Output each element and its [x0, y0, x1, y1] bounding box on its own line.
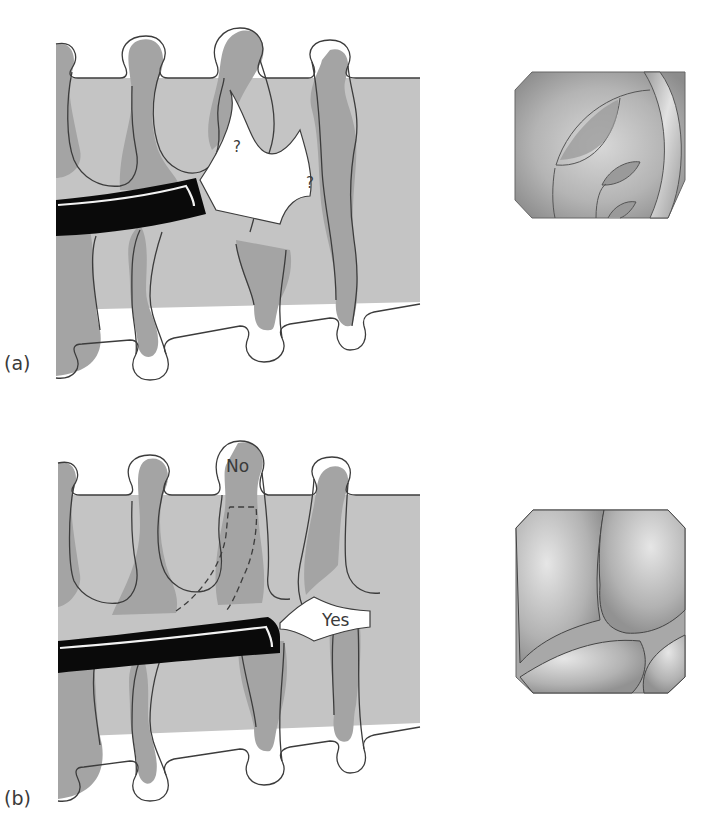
question-mark-2: ?	[306, 174, 314, 192]
colon-diagram-b: Yes No	[0, 415, 705, 830]
endoscopic-view-a	[515, 72, 685, 218]
annotation-yes: Yes	[321, 610, 350, 630]
panel-label-b: (b)	[4, 787, 31, 809]
endoscopic-view-b	[516, 510, 695, 693]
colon-diagram-a: ? ?	[0, 0, 705, 400]
panel-b: Yes No (b)	[0, 415, 705, 830]
annotation-no: No	[226, 456, 249, 476]
panel-label-a: (a)	[4, 352, 30, 374]
panel-a: ? ? (a)	[0, 0, 705, 400]
question-mark-1: ?	[233, 138, 241, 156]
